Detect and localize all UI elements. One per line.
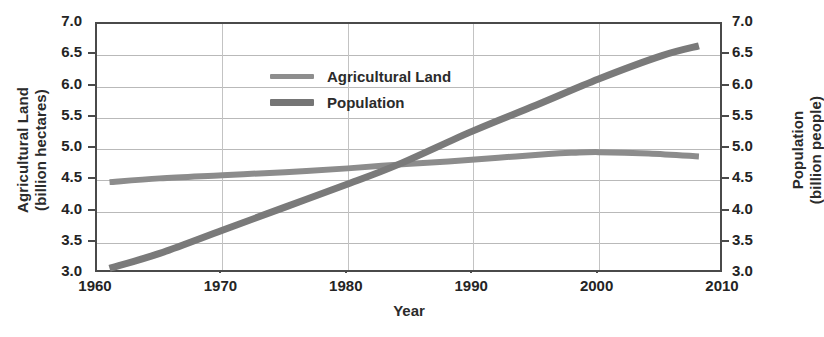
right-axis-tick-label: 7.0 bbox=[732, 12, 753, 29]
x-axis-tick-label: 1970 bbox=[185, 277, 255, 294]
right-axis-title-line1: Population bbox=[789, 55, 807, 245]
left-axis-tick-label: 3.5 bbox=[38, 231, 82, 248]
left-axis-tick-mark bbox=[88, 52, 95, 54]
legend-label-population: Population bbox=[327, 94, 405, 111]
legend-label-agricultural-land: Agricultural Land bbox=[327, 68, 451, 85]
legend-swatch-population bbox=[270, 99, 314, 106]
plot-area bbox=[95, 22, 722, 272]
right-axis-tick-label: 5.5 bbox=[732, 106, 753, 123]
legend-swatch-agricultural-land bbox=[270, 74, 314, 79]
right-axis-title: Population (billion people) bbox=[789, 55, 824, 245]
x-axis-tick-label: 2010 bbox=[687, 277, 757, 294]
chart-legend: Agricultural Land Population bbox=[270, 63, 451, 115]
left-axis-tick-mark bbox=[88, 115, 95, 117]
x-axis-tick-label: 1960 bbox=[60, 277, 130, 294]
x-axis-tick-label: 1990 bbox=[436, 277, 506, 294]
right-axis-tick-label: 3.5 bbox=[732, 231, 753, 248]
right-axis-tick-label: 5.0 bbox=[732, 137, 753, 154]
right-axis-tick-label: 6.5 bbox=[732, 43, 753, 60]
x-axis-title: Year bbox=[95, 302, 723, 319]
left-axis-tick-mark bbox=[88, 146, 95, 148]
chart-figure: Agricultural Land (billion hectares) Pop… bbox=[0, 0, 824, 337]
left-axis-tick-label: 7.0 bbox=[38, 12, 82, 29]
right-axis-title-line2: (billion people) bbox=[807, 55, 824, 245]
left-axis-tick-label: 4.5 bbox=[38, 168, 82, 185]
left-axis-tick-mark bbox=[88, 209, 95, 211]
legend-item-population: Population bbox=[270, 89, 451, 115]
left-axis-tick-label: 5.5 bbox=[38, 106, 82, 123]
right-axis-tick-label: 4.0 bbox=[732, 200, 753, 217]
left-axis-title-line1: Agricultural Land bbox=[14, 55, 32, 245]
series-layer bbox=[97, 24, 724, 274]
right-axis-tick-label: 4.5 bbox=[732, 168, 753, 185]
x-axis-tick-label: 1980 bbox=[311, 277, 381, 294]
right-axis-tick-label: 6.0 bbox=[732, 75, 753, 92]
left-axis-tick-label: 6.5 bbox=[38, 43, 82, 60]
left-axis-tick-label: 4.0 bbox=[38, 200, 82, 217]
x-axis-tick-label: 2000 bbox=[562, 277, 632, 294]
left-axis-tick-label: 5.0 bbox=[38, 137, 82, 154]
series-line-agricultural-land bbox=[110, 152, 699, 182]
left-axis-tick-mark bbox=[88, 177, 95, 179]
left-axis-tick-mark bbox=[88, 84, 95, 86]
legend-item-agricultural-land: Agricultural Land bbox=[270, 63, 451, 89]
left-axis-tick-label: 6.0 bbox=[38, 75, 82, 92]
left-axis-tick-mark bbox=[88, 240, 95, 242]
